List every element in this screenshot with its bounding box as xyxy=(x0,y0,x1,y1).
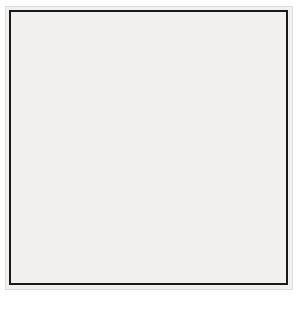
go-board-diagram xyxy=(0,0,299,310)
board-outer-border xyxy=(9,10,288,285)
